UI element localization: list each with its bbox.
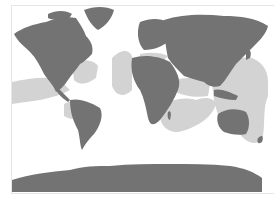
- land-south-america: [70, 99, 102, 150]
- land-arctic-islands: [48, 11, 72, 20]
- land-antarctica: [12, 164, 262, 192]
- range-east-atlantic: [112, 51, 132, 95]
- land-greenland: [84, 7, 114, 30]
- land-masses: [12, 7, 268, 192]
- world-map: [0, 0, 274, 198]
- land-australia: [217, 109, 249, 135]
